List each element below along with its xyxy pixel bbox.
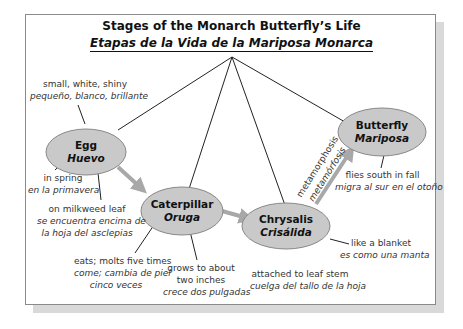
node-egg: Egg Huevo	[46, 139, 126, 165]
node-chrysalis: Chrysalis Crisálida	[242, 213, 330, 239]
label-egg-where: on milkweed leaf se encuentra encima de …	[37, 203, 137, 239]
label-egg-when: in spring en la primavera	[28, 172, 98, 196]
node-butterfly: Butterfly Mariposa	[338, 119, 426, 145]
label-chrysalis-blanket: like a blanket es como una manta	[340, 237, 422, 261]
label-chrysalis-attached: attached to leaf stem cuelga del tallo d…	[250, 268, 350, 292]
label-caterpillar-grows: grows to about two inches crece dos pulg…	[163, 262, 239, 298]
label-caterpillar-eats: eats; molts five times come; cambia de p…	[74, 255, 158, 291]
node-caterpillar: Caterpillar Oruga	[141, 198, 223, 224]
label-egg-description: small, white, shiny pequeño, blanco, bri…	[30, 78, 140, 102]
label-butterfly-flies: flies south in fall migra al sur en el o…	[335, 169, 430, 193]
